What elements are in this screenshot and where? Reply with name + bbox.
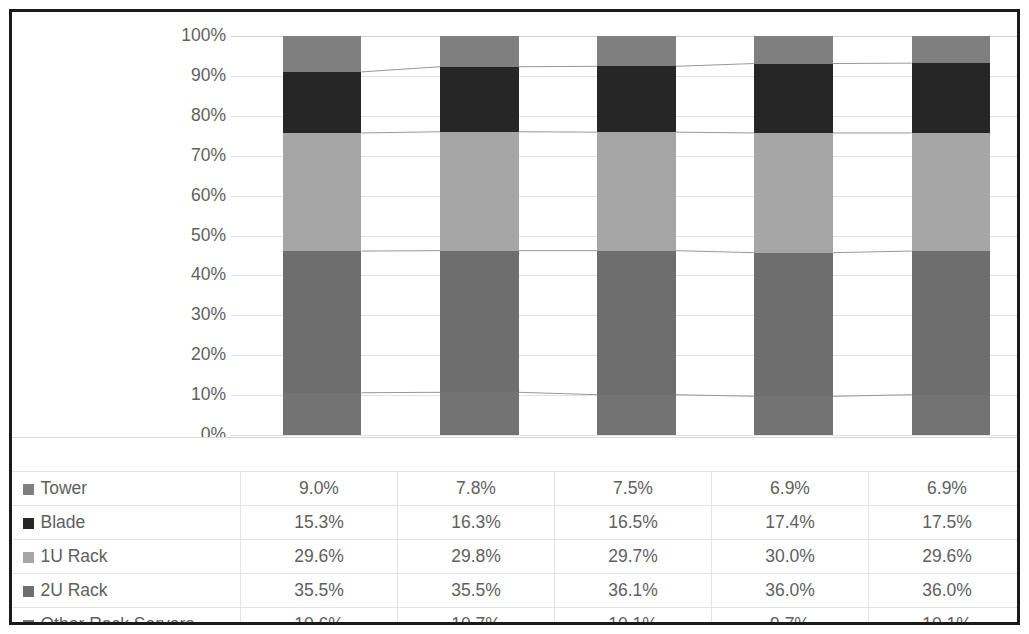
y-axis-tick-label: 40% [166, 266, 226, 284]
chart-data-table: Tower9.0%7.8%7.5%6.9%6.9%Blade15.3%16.3%… [12, 437, 1020, 625]
table-cell-value: 7.8% [398, 472, 555, 506]
gridline [231, 435, 1017, 436]
legend-label: 1U Rack [41, 546, 108, 566]
legend-swatch-icon [23, 552, 34, 563]
legend-swatch-icon [23, 620, 34, 625]
y-axis-tick-label: 10% [166, 386, 226, 404]
table-row: 1U Rack29.6%29.8%29.7%30.0%29.6% [13, 540, 1021, 574]
bar-segment-2u-rack[interactable] [597, 251, 676, 395]
legend-item-tower[interactable]: Tower [13, 472, 241, 506]
table-row: Blade15.3%16.3%16.5%17.4%17.5% [13, 506, 1021, 540]
bar-column-2018[interactable] [860, 36, 1017, 435]
table-cell-value: 17.5% [869, 506, 1021, 540]
bar-segment-2u-rack[interactable] [440, 251, 519, 393]
bar-segment-1u-rack[interactable] [597, 132, 676, 251]
bar-segment-other-rack-servers[interactable] [283, 393, 362, 435]
bar-segment-1u-rack[interactable] [283, 133, 362, 251]
table-cell-value: 29.8% [398, 540, 555, 574]
legend-item-blade[interactable]: Blade [13, 506, 241, 540]
stacked-bar[interactable] [283, 36, 362, 435]
table-cell-value: 35.5% [241, 574, 398, 608]
legend-label: 2U Rack [41, 580, 108, 600]
legend-label: Tower [41, 478, 88, 498]
chart-container: 100%90%80%70%60%50%40%30%20%10%0% 201420… [9, 9, 1020, 625]
bar-segment-other-rack-servers[interactable] [754, 396, 833, 435]
table-cell-value: 10.1% [869, 608, 1021, 626]
bar-segment-blade[interactable] [597, 66, 676, 132]
bar-segment-1u-rack[interactable] [912, 133, 991, 251]
legend-swatch-icon [23, 484, 34, 495]
bar-segment-2u-rack[interactable] [283, 251, 362, 393]
bar-segment-other-rack-servers[interactable] [597, 395, 676, 435]
y-axis-tick-label: 90% [166, 67, 226, 85]
y-axis-tick-label: 80% [166, 107, 226, 125]
data-table-body: Tower9.0%7.8%7.5%6.9%6.9%Blade15.3%16.3%… [13, 438, 1021, 626]
bar-column-2017[interactable] [703, 36, 860, 435]
table-cell-value: 29.6% [241, 540, 398, 574]
bar-segment-2u-rack[interactable] [912, 251, 991, 395]
y-axis-tick-label: 30% [166, 306, 226, 324]
table-cell-value: 36.0% [869, 574, 1021, 608]
legend-swatch-icon [23, 518, 34, 529]
stacked-bar[interactable] [597, 36, 676, 435]
table-cell-value: 36.0% [712, 574, 869, 608]
table-cell-value: 36.1% [555, 574, 712, 608]
table-cell-value: 10.6% [241, 608, 398, 626]
plot-area [231, 36, 1017, 435]
table-row: Other Rack Servers10.6%10.7%10.1%9.7%10.… [13, 608, 1021, 626]
legend-label: Other Rack Servers [41, 614, 195, 625]
table-cell-value: 10.7% [398, 608, 555, 626]
table-row: Tower9.0%7.8%7.5%6.9%6.9% [13, 472, 1021, 506]
stacked-bar[interactable] [440, 36, 519, 435]
bar-segment-2u-rack[interactable] [754, 253, 833, 397]
table-cell-value: 30.0% [712, 540, 869, 574]
table-cell-value: 7.5% [555, 472, 712, 506]
legend-label: Blade [41, 512, 86, 532]
legend-item-1u-rack[interactable]: 1U Rack [13, 540, 241, 574]
y-axis-tick-label: 70% [166, 147, 226, 165]
y-axis-tick-label: 60% [166, 187, 226, 205]
bar-segment-tower[interactable] [912, 36, 991, 64]
table-cell-value: 35.5% [398, 574, 555, 608]
bar-segment-other-rack-servers[interactable] [912, 395, 991, 435]
bar-segment-other-rack-servers[interactable] [440, 392, 519, 435]
bar-segment-tower[interactable] [283, 36, 362, 72]
table-cell-value: 29.7% [555, 540, 712, 574]
bar-column-2014[interactable] [231, 36, 388, 435]
table-cell-value: 9.7% [712, 608, 869, 626]
table-cell-value: 16.3% [398, 506, 555, 540]
table-cell-value: 17.4% [712, 506, 869, 540]
bar-segment-1u-rack[interactable] [754, 133, 833, 253]
y-axis-tick-label: 100% [166, 27, 226, 45]
bar-segment-blade[interactable] [283, 72, 362, 133]
table-row: 2U Rack35.5%35.5%36.1%36.0%36.0% [13, 574, 1021, 608]
bar-segment-tower[interactable] [754, 36, 833, 64]
bar-segment-blade[interactable] [754, 64, 833, 133]
y-axis: 100%90%80%70%60%50%40%30%20%10%0% [160, 12, 226, 437]
bar-column-2015[interactable] [388, 36, 545, 435]
y-axis-tick-label: 50% [166, 227, 226, 245]
table-cell-value: 9.0% [241, 472, 398, 506]
table-cell-value: 6.9% [712, 472, 869, 506]
legend-swatch-icon [23, 586, 34, 597]
legend-item-2u-rack[interactable]: 2U Rack [13, 574, 241, 608]
bar-segment-tower[interactable] [597, 36, 676, 66]
stacked-bar[interactable] [754, 36, 833, 435]
bar-segment-tower[interactable] [440, 36, 519, 67]
bar-column-2016[interactable] [545, 36, 702, 435]
table-cell-value: 16.5% [555, 506, 712, 540]
bar-segment-blade[interactable] [912, 63, 991, 133]
bar-segment-1u-rack[interactable] [440, 132, 519, 251]
table-cell-value: 10.1% [555, 608, 712, 626]
bar-segment-blade[interactable] [440, 67, 519, 132]
table-header-spacer-row [13, 438, 1021, 472]
table-cell-value: 29.6% [869, 540, 1021, 574]
table-cell-value: 15.3% [241, 506, 398, 540]
table-cell-value: 6.9% [869, 472, 1021, 506]
legend-item-other-rack-servers[interactable]: Other Rack Servers [13, 608, 241, 626]
stacked-bar[interactable] [912, 36, 991, 435]
y-axis-tick-label: 20% [166, 346, 226, 364]
plot-region: 100%90%80%70%60%50%40%30%20%10%0% [12, 12, 1017, 437]
